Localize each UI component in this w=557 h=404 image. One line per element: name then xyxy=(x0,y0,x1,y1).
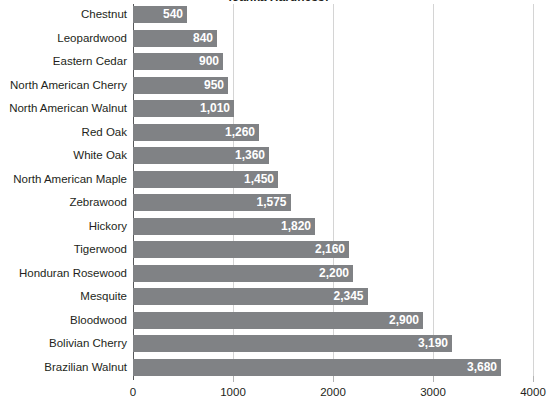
bar[interactable]: 540 xyxy=(133,6,187,23)
bar-row[interactable]: Chestnut540 xyxy=(133,6,533,30)
bar-value-label: 1,575 xyxy=(256,194,286,211)
x-tick-mark xyxy=(233,376,234,382)
bar-value-label: 2,160 xyxy=(315,241,345,258)
bar-value-label: 3,680 xyxy=(467,359,497,376)
category-label: Chestnut xyxy=(81,6,127,23)
bar-value-label: 840 xyxy=(193,30,213,47)
category-label: White Oak xyxy=(73,147,127,164)
category-label: Bolivian Cherry xyxy=(49,335,127,352)
bar[interactable]: 1,260 xyxy=(133,124,259,141)
bar-value-label: 1,360 xyxy=(235,147,265,164)
bar-row[interactable]: Eastern Cedar900 xyxy=(133,53,533,77)
bar-value-label: 2,345 xyxy=(333,288,363,305)
bar[interactable]: 2,160 xyxy=(133,241,349,258)
category-label: Mesquite xyxy=(80,288,127,305)
bar-row[interactable]: North American Cherry950 xyxy=(133,77,533,101)
bar-row[interactable]: Bloodwood2,900 xyxy=(133,312,533,336)
bar[interactable]: 3,190 xyxy=(133,335,452,352)
bar[interactable]: 3,680 xyxy=(133,359,501,376)
bar[interactable]: 1,010 xyxy=(133,100,234,117)
bar-row[interactable]: North American Maple1,450 xyxy=(133,171,533,195)
bar-value-label: 950 xyxy=(204,77,224,94)
x-tick-label: 3000 xyxy=(403,386,463,398)
x-tick-label: 4000 xyxy=(503,386,557,398)
x-tick-mark xyxy=(433,376,434,382)
bar-row[interactable]: Bolivian Cherry3,190 xyxy=(133,335,533,359)
bar-value-label: 2,900 xyxy=(389,312,419,329)
category-label: North American Maple xyxy=(13,171,127,188)
bar[interactable]: 950 xyxy=(133,77,228,94)
bar-row[interactable]: North American Walnut1,010 xyxy=(133,100,533,124)
chart-title: (Janka Hardness) xyxy=(0,0,557,1)
bar-chart: (Janka Hardness) Chestnut540Leopardwood8… xyxy=(0,0,557,404)
category-label: Bloodwood xyxy=(70,312,127,329)
category-label: Honduran Rosewood xyxy=(19,265,127,282)
category-label: North American Walnut xyxy=(9,100,127,117)
category-label: Brazilian Walnut xyxy=(44,359,127,376)
bar-row[interactable]: White Oak1,360 xyxy=(133,147,533,171)
bar-rows: Chestnut540Leopardwood840Eastern Cedar90… xyxy=(133,4,533,380)
bar-value-label: 900 xyxy=(199,53,219,70)
bar-value-label: 2,200 xyxy=(319,265,349,282)
x-tick-mark xyxy=(533,376,534,382)
bar-value-label: 1,450 xyxy=(244,171,274,188)
bar[interactable]: 1,575 xyxy=(133,194,291,211)
bar[interactable]: 2,200 xyxy=(133,265,353,282)
bar-row[interactable]: Zebrawood1,575 xyxy=(133,194,533,218)
bar-value-label: 1,820 xyxy=(281,218,311,235)
x-tick-label: 1000 xyxy=(203,386,263,398)
gridline-4000 xyxy=(533,4,534,380)
category-label: North American Cherry xyxy=(10,77,127,94)
x-tick-mark xyxy=(333,376,334,382)
category-label: Zebrawood xyxy=(69,194,127,211)
bar-row[interactable]: Leopardwood840 xyxy=(133,30,533,54)
category-label: Eastern Cedar xyxy=(53,53,127,70)
plot-area: Chestnut540Leopardwood840Eastern Cedar90… xyxy=(133,4,533,380)
bar[interactable]: 1,360 xyxy=(133,147,269,164)
category-label: Hickory xyxy=(89,218,127,235)
bar[interactable]: 1,450 xyxy=(133,171,278,188)
bar-value-label: 1,010 xyxy=(200,100,230,117)
bar[interactable]: 2,345 xyxy=(133,288,368,305)
bar-row[interactable]: Honduran Rosewood2,200 xyxy=(133,265,533,289)
category-label: Tigerwood xyxy=(74,241,127,258)
bar-row[interactable]: Hickory1,820 xyxy=(133,218,533,242)
bar-value-label: 3,190 xyxy=(418,335,448,352)
bar-row[interactable]: Red Oak1,260 xyxy=(133,124,533,148)
bar-value-label: 1,260 xyxy=(225,124,255,141)
category-label: Red Oak xyxy=(82,124,127,141)
bar[interactable]: 840 xyxy=(133,30,217,47)
bar[interactable]: 2,900 xyxy=(133,312,423,329)
x-tick-label: 2000 xyxy=(303,386,363,398)
x-tick-label: 0 xyxy=(103,386,163,398)
bar-row[interactable]: Tigerwood2,160 xyxy=(133,241,533,265)
bar[interactable]: 1,820 xyxy=(133,218,315,235)
bar[interactable]: 900 xyxy=(133,53,223,70)
bar-value-label: 540 xyxy=(163,6,183,23)
bar-row[interactable]: Mesquite2,345 xyxy=(133,288,533,312)
category-label: Leopardwood xyxy=(57,30,127,47)
